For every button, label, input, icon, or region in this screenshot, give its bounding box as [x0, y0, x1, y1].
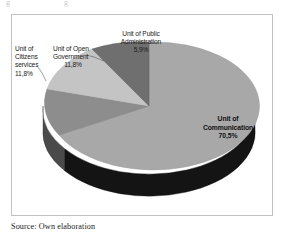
figure-frame: Unit of Citizens services 11,8% Unit of …	[11, 14, 273, 216]
slice-value-citizens-services: 11,8%	[15, 70, 51, 78]
page-top-artifacts: g g	[0, 0, 287, 10]
slice-label-communication-line2: Communication	[192, 124, 264, 133]
slice-label-citizens-services-line3: services	[15, 61, 51, 69]
slice-label-citizens-services-line1: Unit of	[15, 45, 51, 53]
slice-value-public-administration: 5,9%	[101, 46, 181, 54]
slice-label-open-government-line2: Government	[53, 53, 107, 61]
slice-label-communication-line1: Unit of	[192, 115, 264, 124]
slice-label-citizens-services-line2: Citizens	[15, 53, 51, 61]
slice-label-public-administration-line1: Unit of Public	[101, 30, 181, 38]
artifact-glyph-right: g	[64, 0, 68, 7]
slice-value-communication: 70,5%	[192, 132, 264, 141]
slice-label-public-administration: Unit of Public Administration 5,9%	[101, 30, 181, 55]
slice-label-open-government-line1: Unit of Open	[53, 45, 107, 53]
slice-label-open-government: Unit of Open Government 11,8%	[53, 45, 107, 70]
slice-label-citizens-services: Unit of Citizens services 11,8%	[15, 45, 51, 78]
slice-value-open-government: 11,8%	[53, 61, 107, 69]
artifact-glyph-left: g	[6, 0, 10, 7]
source-caption: Source: Own elaboration	[11, 222, 95, 231]
slice-label-communication: Unit of Communication 70,5%	[192, 115, 264, 141]
slice-label-public-administration-line2: Administration	[101, 38, 181, 46]
